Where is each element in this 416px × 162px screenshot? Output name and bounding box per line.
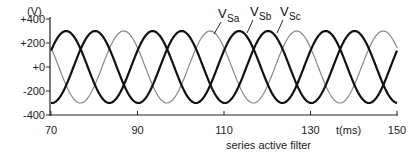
svg-text:Sc: Sc bbox=[289, 11, 301, 22]
y-tick-label: +200 bbox=[20, 37, 45, 49]
svg-text:Sa: Sa bbox=[227, 13, 240, 24]
series-label-vsa: V Sa bbox=[214, 6, 240, 34]
series-line-vsb bbox=[51, 31, 397, 103]
svg-text:Sb: Sb bbox=[259, 11, 272, 22]
y-tick-label: +400 bbox=[20, 13, 45, 25]
y-tick-label: -400 bbox=[23, 109, 45, 121]
x-tick-label: 90 bbox=[131, 124, 143, 136]
chart-caption: series active filter bbox=[226, 139, 311, 151]
series-labels: V Sa V Sb V Sc bbox=[214, 4, 301, 34]
series-label-vsc: V Sc bbox=[277, 4, 301, 33]
x-axis-label: t(ms) bbox=[336, 124, 361, 136]
y-axis: (V) +400+200+0-200-400 bbox=[20, 5, 50, 121]
y-tick-label: -200 bbox=[23, 85, 45, 97]
svg-text:V: V bbox=[250, 4, 259, 19]
x-axis: 7090110130150 t(ms) bbox=[45, 111, 406, 136]
three-phase-voltage-chart: (V) +400+200+0-200-400 7090110130150 t(m… bbox=[0, 0, 416, 162]
x-tick-label: 150 bbox=[388, 124, 406, 136]
x-tick-label: 70 bbox=[45, 124, 57, 136]
series-label-vsb: V Sb bbox=[247, 4, 272, 33]
y-tick-label: +0 bbox=[32, 61, 45, 73]
series-line-vsc bbox=[51, 31, 397, 103]
x-tick-label: 130 bbox=[301, 124, 319, 136]
x-tick-label: 110 bbox=[215, 124, 233, 136]
svg-text:V: V bbox=[218, 6, 227, 21]
waveform-series bbox=[51, 31, 397, 103]
svg-text:V: V bbox=[280, 4, 289, 19]
series-line-vsa bbox=[51, 31, 397, 103]
